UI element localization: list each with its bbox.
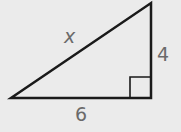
- triangle-figure: [0, 0, 181, 132]
- vertical-leg-label: 4: [157, 45, 169, 64]
- horizontal-leg-label: 6: [75, 105, 87, 124]
- right-angle-marker: [130, 77, 151, 98]
- triangle-diagram: x 4 6: [0, 0, 181, 132]
- hypotenuse-label: x: [64, 27, 75, 46]
